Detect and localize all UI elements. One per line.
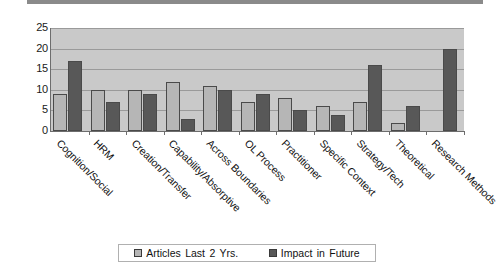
bar-chart: 0510152025 Cognition/SocialHRMCreation/T… [0, 0, 504, 268]
x-axis-tick-label: Across Boundaries [204, 137, 274, 207]
x-axis-tick-label: Research Methods [430, 137, 500, 207]
legend-item: Impact in Future [269, 247, 360, 259]
legend-label: Articles Last 2 Yrs. [146, 247, 238, 259]
legend-label: Impact in Future [281, 247, 360, 259]
chart-legend: Articles Last 2 Yrs. Impact in Future [118, 244, 376, 262]
legend-swatch-icon [134, 249, 142, 257]
legend-swatch-icon [269, 249, 277, 257]
legend-item: Articles Last 2 Yrs. [134, 247, 238, 259]
x-axis-tick-label: Capability/Absorptive [167, 137, 244, 214]
x-axis-tick-label: HRM [92, 137, 117, 162]
x-axis-labels: Cognition/SocialHRMCreation/TransferCapa… [0, 0, 504, 268]
